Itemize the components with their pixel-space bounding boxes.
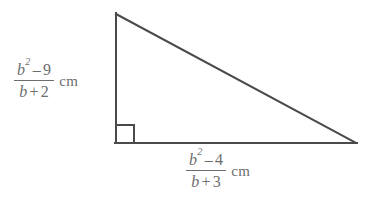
horizontal-fraction-denominator: b+3 (188, 171, 224, 190)
numerator-operator: – (31, 61, 43, 78)
horizontal-side-label: b2–4 b+3 cm (186, 152, 250, 190)
horizontal-fraction-numerator: b2–4 (186, 152, 226, 170)
numerator-operator: – (203, 151, 215, 168)
triangle-drawing (0, 0, 370, 212)
denominator-operator: + (199, 173, 212, 190)
numerator-exponent: 2 (25, 56, 30, 67)
denominator-operator: + (27, 83, 40, 100)
vertical-fraction-numerator: b2–9 (14, 62, 54, 80)
geometry-figure: b2–9 b+2 cm b2–4 b+3 cm (0, 0, 370, 212)
numerator-exponent: 2 (197, 146, 202, 157)
right-angle-marker (116, 125, 134, 143)
numerator-constant: 9 (43, 61, 51, 78)
denominator-constant: 3 (213, 173, 221, 190)
denominator-constant: 2 (41, 83, 49, 100)
horizontal-side-unit: cm (231, 164, 250, 179)
vertical-fraction-denominator: b+2 (16, 81, 52, 100)
horizontal-side-fraction: b2–4 b+3 (186, 152, 226, 190)
vertical-side-unit: cm (59, 74, 78, 89)
vertical-side-fraction: b2–9 b+2 (14, 62, 54, 100)
numerator-constant: 4 (215, 151, 223, 168)
hypotenuse-line (116, 14, 356, 143)
vertical-side-label: b2–9 b+2 cm (14, 62, 78, 100)
